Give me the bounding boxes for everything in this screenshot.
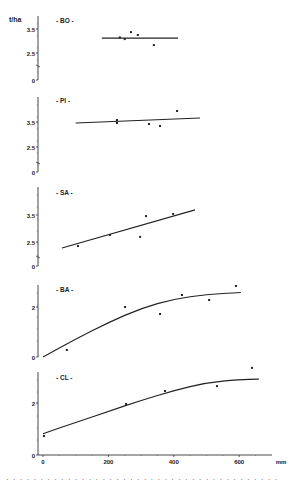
data-point: [77, 245, 79, 247]
y-tick-label: 3.5: [27, 120, 36, 126]
x-tick-label: 0: [41, 459, 45, 465]
y-tick-label: 3.5: [27, 27, 36, 33]
fit-curve: [43, 293, 241, 358]
y-tick-label: 0: [32, 453, 36, 459]
data-point: [125, 403, 127, 405]
data-point: [43, 435, 45, 437]
x-tick-label: 400: [169, 459, 180, 465]
data-point: [130, 31, 132, 33]
y-tick-label: 0: [32, 78, 36, 84]
data-point: [148, 123, 150, 125]
y-tick-label: 2: [32, 401, 36, 407]
x-tick-label: 200: [103, 459, 114, 465]
y-tick-label: 0: [32, 170, 36, 176]
data-point: [66, 349, 68, 351]
data-point: [137, 34, 139, 36]
y-tick-label: 2: [32, 305, 36, 311]
y-tick-label: 3.5: [27, 213, 36, 219]
data-point: [153, 44, 155, 46]
data-point: [109, 234, 111, 236]
y-tick-label: 0: [32, 355, 36, 361]
y-tick-label: 2.5: [27, 240, 36, 246]
panel-title-ba: - BA -: [56, 286, 73, 293]
data-point: [124, 38, 126, 40]
panel-title-sa: - SA -: [56, 189, 73, 196]
rainfall-yield-figure: t/ha02.53.5- BO -02.53.5- PI -02.53.5- S…: [0, 0, 293, 482]
data-point: [172, 213, 174, 215]
data-point: [216, 385, 218, 387]
data-point: [124, 306, 126, 308]
figure-caption-cutoff: · · · · · · · · · · · · · · · · · · · · …: [6, 476, 290, 482]
x-tick-label: 600: [234, 459, 245, 465]
y-axis-unit-label: t/ha: [9, 16, 22, 23]
data-point: [116, 122, 118, 124]
y-tick-label: 0: [32, 264, 36, 270]
data-point: [208, 299, 210, 301]
data-point: [145, 215, 147, 217]
fit-line: [62, 210, 195, 248]
data-point: [164, 390, 166, 392]
x-axis-unit-label: mm: [276, 459, 287, 465]
data-point: [119, 36, 121, 38]
data-point: [251, 367, 253, 369]
y-tick-label: 2.5: [27, 51, 36, 57]
panel-title-cl: - CL -: [56, 374, 73, 381]
panel-title-pi: - PI -: [56, 97, 70, 104]
data-point: [159, 313, 161, 315]
data-point: [159, 125, 161, 127]
panel-title-bo: - BO -: [56, 17, 74, 24]
y-tick-label: 2.5: [27, 145, 36, 151]
fit-line: [76, 118, 200, 123]
data-point: [181, 294, 183, 296]
chart-canvas: t/ha02.53.5- BO -02.53.5- PI -02.53.5- S…: [0, 0, 293, 482]
data-point: [176, 110, 178, 112]
data-point: [139, 236, 141, 238]
data-point: [116, 119, 118, 121]
data-point: [235, 285, 237, 287]
fit-curve: [43, 379, 259, 434]
